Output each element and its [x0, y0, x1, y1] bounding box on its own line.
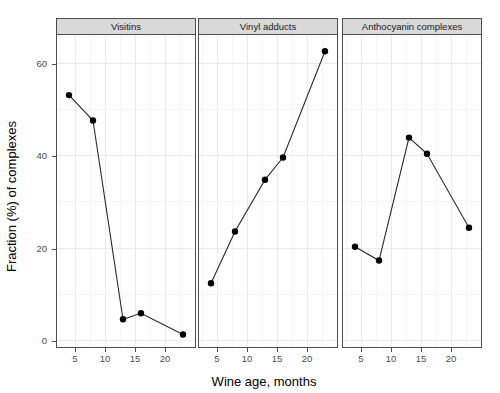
plot-area: [56, 35, 196, 348]
y-axis-tick-label: 40: [25, 150, 47, 161]
x-axis-tick-label: 15: [411, 353, 431, 364]
y-axis-tick: [52, 249, 56, 250]
data-point: [66, 92, 72, 98]
y-axis-tick: [52, 64, 56, 65]
y-axis-tick-label: 20: [25, 243, 47, 254]
x-axis-tick-label: 10: [381, 353, 401, 364]
panel-0: Visitins: [56, 18, 196, 348]
x-axis-tick-label: 5: [65, 353, 85, 364]
data-point: [466, 225, 472, 231]
plot-area: [342, 35, 482, 348]
x-axis-tick-label: 10: [237, 353, 257, 364]
data-point: [280, 154, 286, 160]
x-axis-tick: [307, 348, 308, 352]
data-point: [322, 48, 328, 54]
x-axis-title: Wine age, months: [38, 372, 490, 390]
x-axis-tick: [421, 348, 422, 352]
x-axis-tick-label: 5: [351, 353, 371, 364]
panel-1: Vinyl adducts: [198, 18, 338, 348]
y-axis-tick: [52, 156, 56, 157]
x-axis-tick: [247, 348, 248, 352]
panel-strip-label: Visitins: [56, 18, 196, 35]
x-axis-tick: [135, 348, 136, 352]
data-point: [208, 280, 214, 286]
y-axis-title: Fraction (%) of complexes: [0, 0, 22, 393]
x-axis-tick-label: 5: [207, 353, 227, 364]
x-axis-tick-label: 15: [267, 353, 287, 364]
data-series: [343, 35, 481, 347]
series-line: [211, 51, 325, 283]
x-axis-tick-label: 20: [441, 353, 461, 364]
panel-strip-label: Vinyl adducts: [198, 18, 338, 35]
x-axis-tick: [391, 348, 392, 352]
x-axis-tick: [75, 348, 76, 352]
x-axis-tick: [361, 348, 362, 352]
y-axis-tick-label: 60: [25, 58, 47, 69]
data-series: [199, 35, 337, 347]
data-point: [232, 228, 238, 234]
x-axis-tick: [451, 348, 452, 352]
panel-strip-label: Anthocyanin complexes: [342, 18, 482, 35]
data-point: [120, 316, 126, 322]
data-point: [376, 257, 382, 263]
x-axis-tick: [165, 348, 166, 352]
x-axis-tick-label: 15: [125, 353, 145, 364]
data-point: [180, 331, 186, 337]
data-point: [90, 117, 96, 123]
x-axis-tick: [105, 348, 106, 352]
data-point: [262, 176, 268, 182]
data-point: [406, 134, 412, 140]
series-line: [69, 95, 183, 334]
x-axis-tick-label: 20: [297, 353, 317, 364]
plot-area: [198, 35, 338, 348]
series-line: [355, 138, 469, 261]
x-axis-tick: [217, 348, 218, 352]
data-point: [138, 310, 144, 316]
panel-2: Anthocyanin complexes: [342, 18, 482, 348]
x-axis-tick-label: 20: [155, 353, 175, 364]
x-axis-tick-label: 10: [95, 353, 115, 364]
data-point: [424, 151, 430, 157]
y-axis-tick-label: 0: [25, 335, 47, 346]
data-point: [352, 244, 358, 250]
x-axis-tick: [277, 348, 278, 352]
data-series: [57, 35, 195, 347]
facet-line-chart: Fraction (%) of complexes Wine age, mont…: [0, 0, 500, 393]
y-axis-tick: [52, 341, 56, 342]
